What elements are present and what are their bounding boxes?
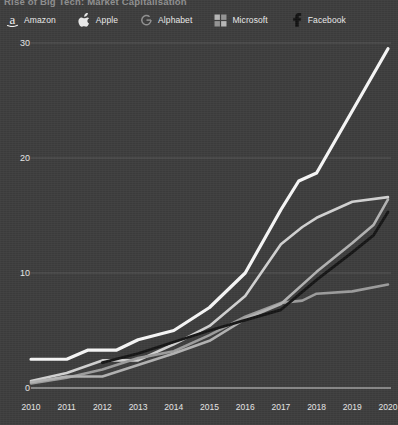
- legend-item-label: Facebook: [308, 15, 346, 25]
- microsoft-squares-icon: [214, 13, 227, 27]
- x-axis-tick-label: 2010: [22, 402, 41, 412]
- page-title: Rise of Big Tech: Market Capitalisation: [4, 0, 187, 7]
- legend-item-apple[interactable]: Apple: [78, 13, 118, 27]
- x-axis-tick-label: 2016: [236, 402, 255, 412]
- svg-text:a: a: [10, 13, 16, 27]
- series-line-apple: [31, 197, 388, 381]
- series-line-amazon: [31, 49, 388, 360]
- facebook-f-icon: [290, 13, 303, 27]
- x-axis-tick-label: 2012: [93, 402, 112, 412]
- series-line-alphabet: [31, 285, 388, 384]
- amazon-a-icon: a: [6, 13, 19, 27]
- legend-item-label: Amazon: [24, 15, 56, 25]
- x-axis-tick-label: 2015: [200, 402, 219, 412]
- x-axis-tick-label: 2013: [129, 402, 148, 412]
- x-axis-tick-label: 2020: [379, 402, 398, 412]
- chart-screenshot: Rise of Big Tech: Market Capitalisation …: [0, 0, 398, 425]
- google-g-icon: [140, 13, 153, 27]
- y-axis-tick-label: 30: [4, 38, 30, 48]
- y-axis-tick-label: 20: [4, 153, 30, 163]
- y-axis: 0102030: [0, 38, 30, 398]
- x-axis-tick-label: 2019: [343, 402, 362, 412]
- legend-item-label: Apple: [96, 15, 118, 25]
- legend-item-facebook[interactable]: Facebook: [290, 13, 346, 27]
- apple-logo-icon: [78, 13, 91, 27]
- x-axis-tick-label: 2011: [58, 402, 76, 412]
- legend-item-label: Alphabet: [158, 15, 192, 25]
- legend-item-alphabet[interactable]: Alphabet: [140, 13, 192, 27]
- legend-item-microsoft[interactable]: Microsoft: [214, 13, 267, 27]
- x-axis-tick-label: 2014: [164, 402, 183, 412]
- y-axis-tick-label: 0: [4, 383, 30, 393]
- series-line-facebook: [102, 212, 388, 363]
- chart-legend: a Amazon Apple Alphabet Microsoft Facebo…: [6, 11, 368, 29]
- legend-item-amazon[interactable]: a Amazon: [6, 13, 56, 27]
- y-axis-tick-label: 10: [4, 268, 30, 278]
- legend-item-label: Microsoft: [232, 15, 267, 25]
- x-axis: 2010201120122013201420152016201720182019…: [0, 402, 398, 418]
- x-axis-tick-label: 2018: [307, 402, 326, 412]
- series-line-microsoft: [31, 199, 388, 382]
- x-axis-tick-label: 2017: [271, 402, 290, 412]
- chart-plot-area: [0, 38, 398, 398]
